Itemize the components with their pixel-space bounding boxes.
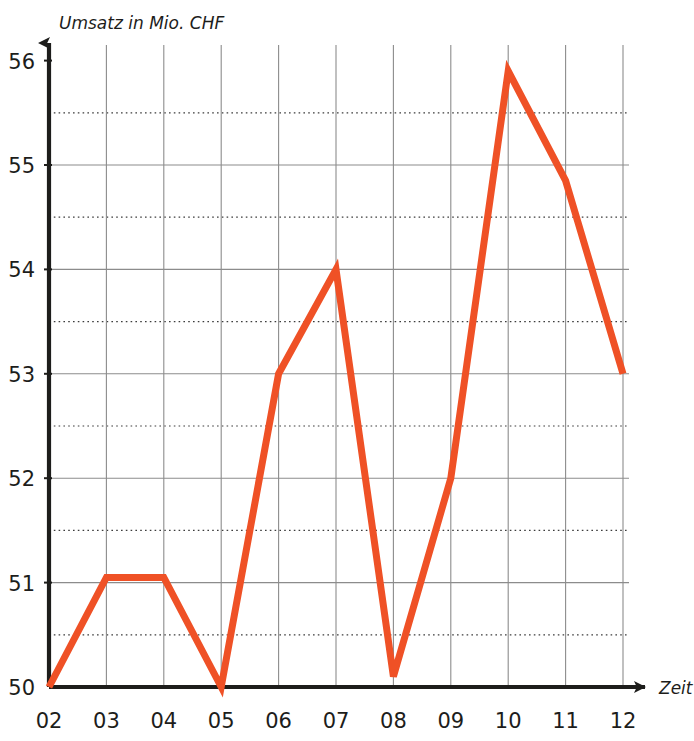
line-chart: 56555453525150 0203040506070809101112 Um… [0, 0, 694, 741]
chart-container: 56555453525150 0203040506070809101112 Um… [0, 0, 694, 741]
y-axis-tick-labels: 56555453525150 [8, 50, 35, 700]
y-axis-title: Umsatz in Mio. CHF [59, 13, 224, 33]
y-axis-tick-label: 52 [8, 467, 35, 491]
x-axis-tick-label: 05 [208, 709, 235, 733]
x-axis-tick-label: 08 [380, 709, 407, 733]
x-axis-title: Zeit [658, 678, 694, 698]
x-axis-tick-label: 10 [495, 709, 522, 733]
x-axis-tick-labels: 0203040506070809101112 [36, 709, 637, 733]
y-axis-tick-label: 53 [8, 363, 35, 387]
x-axis-tick-label: 07 [323, 709, 350, 733]
y-axis-tick-label: 55 [8, 154, 35, 178]
x-axis-tick-label: 03 [93, 709, 120, 733]
x-axis-tick-label: 12 [610, 709, 637, 733]
y-axis-tick-label: 56 [8, 50, 35, 74]
y-axis-tick-label: 51 [8, 572, 35, 596]
y-axis-tick-label: 50 [8, 676, 35, 700]
y-axis-tick-label: 54 [8, 258, 35, 282]
x-axis-tick-label: 11 [552, 709, 579, 733]
x-axis-tick-label: 09 [437, 709, 464, 733]
x-axis-tick-label: 06 [265, 709, 292, 733]
x-axis-tick-label: 04 [150, 709, 177, 733]
x-axis-tick-label: 02 [36, 709, 63, 733]
gridlines-horizontal-major [49, 165, 629, 583]
